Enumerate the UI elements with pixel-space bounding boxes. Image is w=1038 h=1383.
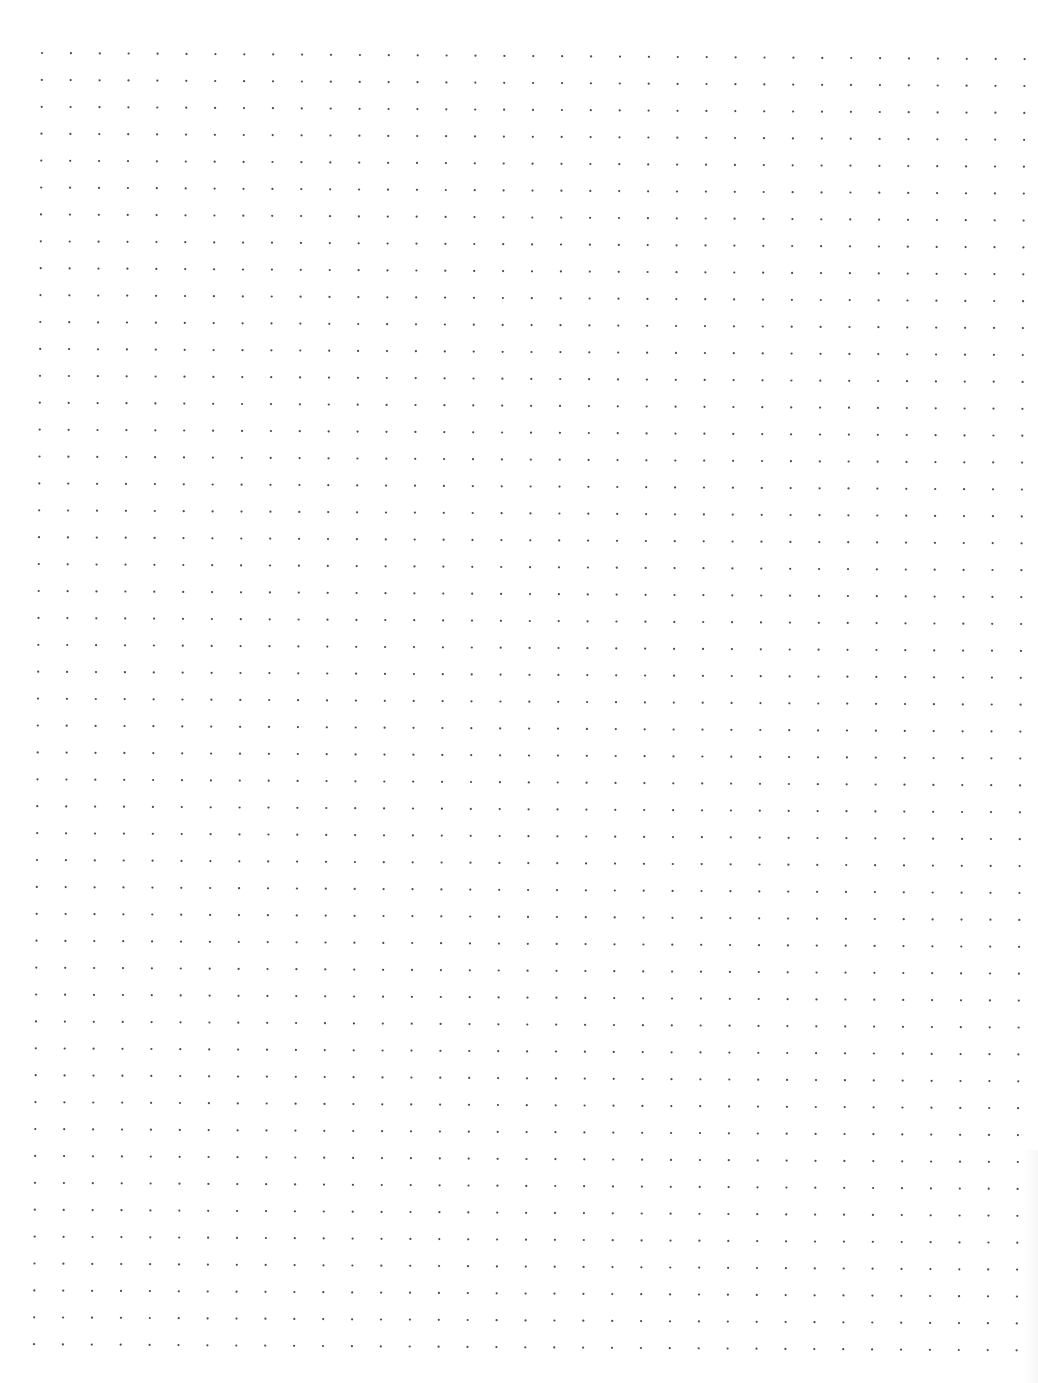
grid-dot [614,863,616,865]
grid-dot [62,1263,64,1265]
grid-dot [210,726,212,728]
grid-dot [818,541,820,543]
grid-dot [410,1050,412,1052]
grid-dot [181,698,183,700]
grid-dot [908,84,910,86]
grid-dot [239,699,241,701]
grid-dot [963,542,965,544]
grid-dot [327,592,329,594]
grid-dot [34,1101,36,1103]
grid-dot [728,1105,730,1107]
grid-dot [589,163,591,165]
grid-dot [561,136,563,138]
grid-dot [503,189,505,191]
grid-dot [323,1103,325,1105]
grid-dot [585,835,587,837]
grid-dot [820,299,822,301]
grid-dot [213,214,215,216]
grid-dot [559,405,561,407]
grid-dot [960,972,962,974]
grid-dot [272,107,274,109]
grid-dot [323,1210,325,1212]
grid-dot [209,995,211,997]
grid-dot [814,1214,816,1216]
grid-dot [212,510,214,512]
grid-dot [180,887,182,889]
grid-dot [987,1215,989,1217]
grid-dot [357,296,359,298]
grid-dot [440,969,442,971]
grid-dot [842,1321,844,1323]
grid-dot [582,1347,584,1349]
grid-dot [584,1078,586,1080]
grid-dot [213,349,215,351]
grid-dot [558,486,560,488]
grid-dot [412,861,414,863]
grid-dot [40,267,42,269]
grid-dot [555,1024,557,1026]
grid-dot [213,322,215,324]
grid-dot [813,1321,815,1323]
grid-dot [387,242,389,244]
grid-dot [441,835,443,837]
grid-dot [125,510,127,512]
grid-dot [760,621,762,623]
grid-dot [560,217,562,219]
grid-dot [531,243,533,245]
grid-dot [473,351,475,353]
grid-dot [38,563,40,565]
grid-dot [122,886,124,888]
grid-dot [872,1160,874,1162]
grid-dot [323,1130,325,1132]
grid-dot [646,379,648,381]
grid-dot [69,267,71,269]
grid-dot [902,945,904,947]
grid-dot [730,809,732,811]
grid-dot [849,165,851,167]
grid-dot [847,568,849,570]
grid-dot [269,484,271,486]
grid-dot [615,620,617,622]
grid-dot [703,433,705,435]
grid-dot [472,458,474,460]
grid-dot [270,403,272,405]
grid-dot [729,1025,731,1027]
grid-dot [241,484,243,486]
grid-dot [961,892,963,894]
grid-dot [1019,865,1021,867]
grid-dot [906,407,908,409]
grid-dot [849,272,851,274]
grid-dot [589,217,591,219]
grid-dot [383,834,385,836]
grid-dot [443,512,445,514]
grid-dot [268,726,270,728]
grid-dot [209,941,211,943]
grid-dot [35,967,37,969]
grid-dot [440,915,442,917]
grid-dot [586,674,588,676]
grid-dot [815,1025,817,1027]
grid-dot [640,1293,642,1295]
grid-dot [181,752,183,754]
grid-dot [329,134,331,136]
grid-dot [467,1292,469,1294]
grid-dot [558,512,560,514]
grid-dot [323,1237,325,1239]
grid-dot [876,514,878,516]
grid-dot [500,647,502,649]
dot-grid [0,0,1038,1383]
grid-dot [788,729,790,731]
grid-dot [470,808,472,810]
grid-dot [960,999,962,1001]
grid-dot [183,510,185,512]
grid-dot [701,729,703,731]
grid-dot [94,832,96,834]
grid-dot [727,1347,729,1349]
grid-dot [68,348,70,350]
grid-dot [646,405,648,407]
grid-dot [958,1322,960,1324]
grid-dot [126,241,128,243]
grid-dot [178,1290,180,1292]
grid-dot [559,432,561,434]
grid-dot [184,295,186,297]
